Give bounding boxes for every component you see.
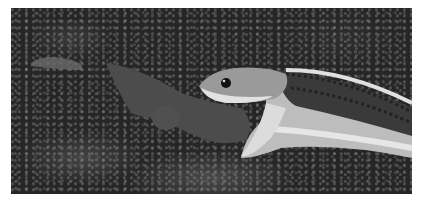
- snake-photo: [11, 8, 412, 194]
- snake-eye: [221, 78, 231, 88]
- salamander-leg: [152, 106, 180, 130]
- photo-subjects: [11, 8, 412, 194]
- salamander-tail-curl: [31, 57, 82, 70]
